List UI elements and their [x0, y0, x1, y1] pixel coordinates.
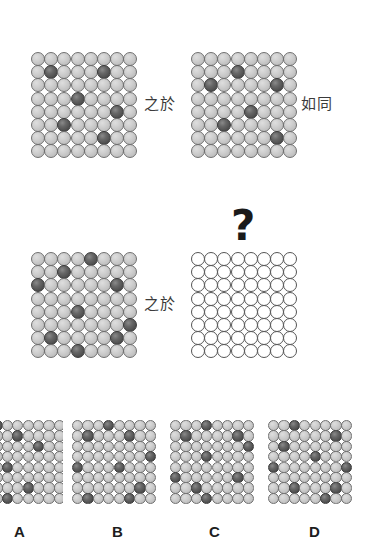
option-a-box[interactable]: [0, 420, 63, 506]
panel-a-ball-3-1: [44, 92, 58, 106]
panel-c-ball-7-1: [44, 344, 58, 358]
panel-c-ball-3-1: [44, 292, 58, 306]
panel-a-ball-3-4: [84, 92, 98, 106]
panel-a-ball-7-1: [44, 144, 58, 158]
panel-a-ball-0-7: [123, 52, 137, 66]
panel-d-ball-0-5: [257, 252, 271, 266]
panel-a-ball-7-3: [71, 144, 85, 158]
panel-a-ball-4-7: [123, 105, 137, 119]
panel-c-ball-7-0: [31, 344, 45, 358]
option-c-grid[interactable]: [170, 420, 254, 504]
panel-a-ball-5-3: [71, 118, 85, 132]
panel-a-ball-0-1: [44, 52, 58, 66]
option-b-ball-7-1: [82, 493, 93, 504]
panel-d-ball-2-6: [270, 278, 284, 292]
panel-c-ball-0-5: [97, 252, 111, 266]
panel-c-ball-4-7: [123, 305, 137, 319]
option-a-ball-1-7: [54, 430, 63, 441]
panel-a-ball-4-2: [57, 105, 71, 119]
panel-b-ball-5-7: [283, 118, 297, 132]
panel-a-ball-2-1: [44, 78, 58, 92]
panel-b-ball-6-1: [204, 131, 218, 145]
panel-b-ball-6-0: [191, 131, 205, 145]
panel-c-ball-5-4: [84, 318, 98, 332]
option-c-ball-6-7: [243, 482, 254, 493]
option-a-ball-6-7: [54, 482, 63, 493]
panel-b-ball-6-7: [283, 131, 297, 145]
option-b-ball-3-3: [103, 451, 114, 462]
panel-a-ball-6-1: [44, 131, 58, 145]
panel-d-ball-7-0: [191, 344, 205, 358]
panel-a-ball-0-0: [31, 52, 45, 66]
panel-b-ball-6-5: [257, 131, 271, 145]
panel-a-ball-0-6: [110, 52, 124, 66]
panel-d-ball-1-0: [191, 265, 205, 279]
option-b-box[interactable]: [72, 420, 157, 506]
option-d-ball-6-7: [341, 482, 352, 493]
panel-d-ball-7-2: [217, 344, 231, 358]
panel-c-ball-0-2: [57, 252, 71, 266]
panel-d-ball-0-4: [244, 252, 258, 266]
panel-b-ball-3-6: [270, 92, 284, 106]
option-b-ball-6-7: [145, 482, 156, 493]
option-c-ball-3-1: [180, 451, 191, 462]
panel-a-ball-7-7: [123, 144, 137, 158]
panel-b-ball-6-6: [270, 131, 284, 145]
panel-d-ball-7-4: [244, 344, 258, 358]
option-d-box[interactable]: [268, 420, 353, 506]
panel-d-ball-0-3: [231, 252, 245, 266]
panel-d-ball-7-7: [283, 344, 297, 358]
panel-a-ball-7-0: [31, 144, 45, 158]
panel-a-ball-2-5: [97, 78, 111, 92]
panel-b-ball-3-3: [231, 92, 245, 106]
panel-d-ball-4-7: [283, 305, 297, 319]
panel-c-ball-2-5: [97, 278, 111, 292]
option-c-ball-3-6: [232, 451, 243, 462]
panel-a-ball-1-6: [110, 65, 124, 79]
panel-c-ball-2-3: [71, 278, 85, 292]
panel-a-ball-2-7: [123, 78, 137, 92]
panel-d-ball-6-4: [244, 331, 258, 345]
option-d-ball-3-7: [341, 451, 352, 462]
panel-d-ball-5-5: [257, 318, 271, 332]
panel-c-ball-6-2: [57, 331, 71, 345]
panel-c-ball-7-3: [71, 344, 85, 358]
option-d-ball-3-1: [278, 451, 289, 462]
panel-b-ball-0-4: [244, 52, 258, 66]
panel-d-ball-5-7: [283, 318, 297, 332]
option-c-ball-7-3: [201, 493, 212, 504]
panel-a-ball-1-1: [44, 65, 58, 79]
panel-a-ball-0-4: [84, 52, 98, 66]
panel-d-ball-7-3: [231, 344, 245, 358]
panel-a-ball-5-4: [84, 118, 98, 132]
panel-c-ball-3-2: [57, 292, 71, 306]
panel-d-ball-5-3: [231, 318, 245, 332]
panel-b-ball-7-7: [283, 144, 297, 158]
panel-b-ball-5-5: [257, 118, 271, 132]
option-a-ball-7-3: [12, 493, 23, 504]
option-a-ball-7-6: [43, 493, 54, 504]
option-b-grid[interactable]: [72, 420, 156, 504]
panel-a-ball-7-6: [110, 144, 124, 158]
panel-b-ball-4-1: [204, 105, 218, 119]
panel-d-ball-1-1: [204, 265, 218, 279]
panel-d-ball-4-0: [191, 305, 205, 319]
panel-c-ball-5-3: [71, 318, 85, 332]
panel-b-ball-4-2: [217, 105, 231, 119]
option-d-ball-1-6: [330, 430, 341, 441]
option-b-ball-3-6: [134, 451, 145, 462]
option-d-ball-7-1: [278, 493, 289, 504]
option-d-grid[interactable]: [268, 420, 352, 504]
option-a-ball-1-3: [12, 430, 23, 441]
option-c-box[interactable]: [170, 420, 255, 506]
option-d-ball-6-3: [299, 482, 310, 493]
panel-a-ball-3-5: [97, 92, 111, 106]
option-a-grid[interactable]: [0, 420, 63, 504]
panel-b-ball-4-6: [270, 105, 284, 119]
panel-a-ball-2-3: [71, 78, 85, 92]
panel-d-ball-2-3: [231, 278, 245, 292]
option-b-ball-3-7: [145, 451, 156, 462]
panel-a-ball-4-3: [71, 105, 85, 119]
panel-b-ball-2-6: [270, 78, 284, 92]
panel-d-ball-7-5: [257, 344, 271, 358]
